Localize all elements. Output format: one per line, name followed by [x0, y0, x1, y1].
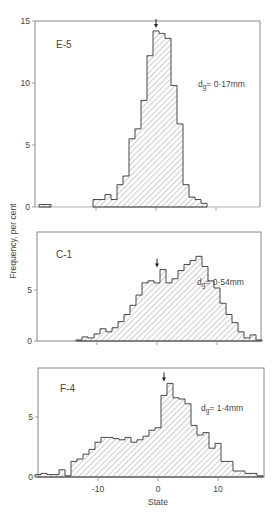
panel-c1-bars [76, 256, 262, 341]
y-tick-label: 0 [28, 472, 33, 482]
x-axis-label: State [148, 497, 168, 507]
panel-e5-xticks [96, 207, 216, 211]
histogram-bars [39, 205, 51, 207]
y-tick-label: 5 [28, 412, 33, 422]
panel-e5-title: E-5 [56, 39, 72, 50]
panel-e5-annotation: dg= 0·17mm [198, 79, 245, 91]
x-tick-labels: -10 0 10 [92, 484, 223, 494]
x-tick-label: -10 [92, 484, 105, 494]
histogram-bars [35, 383, 263, 477]
panel-c1: 05 C-1 dg= 0·54mm [27, 232, 262, 346]
histogram-figure: 051015 E-5 dg= 0·17mm 05 C-1 dg= 0·54mm … [0, 0, 278, 522]
panel-e5-yticks: 051015 [21, 16, 35, 212]
histogram-bars [76, 256, 262, 341]
y-tick-label: 10 [21, 78, 31, 88]
y-tick-label: 5 [27, 285, 32, 295]
arrow-down-icon [162, 372, 166, 381]
panel-c1-xticks [97, 341, 217, 345]
histogram-bars [93, 31, 207, 207]
y-tick-label: 5 [25, 140, 30, 150]
arrow-down-icon [155, 259, 159, 268]
arrow-down-icon [154, 19, 158, 28]
panel-c1-title: C-1 [56, 249, 73, 260]
panel-f4-title: F-4 [60, 383, 75, 394]
panel-f4-bars [35, 383, 263, 477]
y-tick-label: 0 [25, 202, 30, 212]
panel-f4-annotation: dg= 1·4mm [201, 403, 243, 415]
y-axis-label: Frequency, per cent [8, 203, 18, 279]
y-tick-label: 0 [27, 336, 32, 346]
x-tick-label: 0 [156, 484, 161, 494]
x-tick-label: 10 [213, 484, 223, 494]
panel-c1-yticks: 05 [27, 285, 37, 346]
panel-f4-yticks: 05 [28, 412, 38, 482]
panel-f4-xticks [98, 477, 218, 481]
panel-f4: 05 F-4 dg= 1·4mm [28, 368, 264, 482]
y-tick-label: 15 [21, 16, 31, 26]
panel-e5-bars [39, 31, 207, 207]
panel-e5: 051015 E-5 dg= 0·17mm [21, 16, 260, 212]
